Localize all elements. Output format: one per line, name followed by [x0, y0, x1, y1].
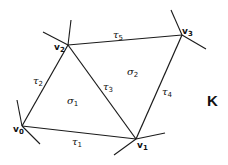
edge-tau3 [68, 45, 136, 139]
edge-label-tau3: τ3 [103, 81, 113, 94]
stub-v1-right [136, 133, 165, 139]
stub-v2-up [68, 20, 71, 45]
edge-tau5 [68, 35, 182, 45]
edge-label-tau5: τ5 [113, 29, 123, 42]
face-label-sigma2: σ2 [127, 66, 138, 79]
edge-tau4 [136, 35, 182, 139]
edge-label-tau1: τ1 [72, 136, 82, 149]
simplicial-complex-diagram: v0 v1 v2 v3 τ1 τ2 τ3 τ4 τ5 σ1 σ2 K [0, 0, 228, 165]
complex-label-k: K [207, 92, 218, 109]
stub-v1-down [114, 139, 136, 155]
vertex-label-v1: v1 [137, 140, 148, 152]
stub-v3-down [182, 35, 206, 49]
vertex-label-v2: v2 [54, 42, 65, 54]
edge-tau1 [22, 126, 136, 139]
edge-tau2 [22, 45, 68, 126]
stub-v3-up [171, 10, 182, 35]
edge-label-tau2: τ2 [33, 75, 43, 88]
edge-label-tau4: τ4 [162, 86, 173, 99]
stub-v0-down [22, 126, 40, 144]
face-label-sigma1: σ1 [67, 95, 78, 108]
stub-v0-up [17, 100, 22, 126]
